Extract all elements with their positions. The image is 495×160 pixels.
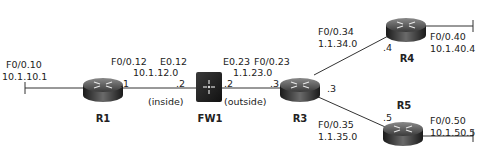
link-r3-r5-subnet: 1.1.35.0 <box>318 131 357 142</box>
r4-host: .4 <box>383 42 392 53</box>
link-r1-fw1-subnet: 10.1.12.0 <box>133 67 178 78</box>
r1-label: R1 <box>96 113 111 124</box>
r5-right-ip: 10.1.50.5 <box>430 127 475 138</box>
r5-right-iface: F0/0.50 <box>430 115 466 126</box>
r3-host-right: .3 <box>327 83 336 94</box>
r1-host-right: .1 <box>120 78 129 89</box>
r1-left-ip: 10.1.10.1 <box>2 71 47 82</box>
network-topology <box>0 0 495 160</box>
link-r3-r4-subnet: 1.1.34.0 <box>318 38 357 49</box>
link-r3-r5-iface: F0/0.35 <box>318 119 354 130</box>
router-r1-icon[interactable] <box>83 78 123 102</box>
fw1-label: FW1 <box>198 113 223 124</box>
fw1-right-iface: E0.23 <box>223 56 250 67</box>
fw1-host-right: .2 <box>224 78 233 89</box>
router-r5-icon[interactable] <box>383 122 423 146</box>
link-fw1-r3-subnet: 1.1.23.0 <box>233 67 272 78</box>
r1-left-iface: F0/0.10 <box>6 59 42 70</box>
fw1-left-iface: E0.12 <box>160 56 187 67</box>
r4-right-iface: F0/0.40 <box>430 31 466 42</box>
link-r3-r4-iface: F0/0.34 <box>318 26 354 37</box>
link-fw1-r3-iface: F0/0.23 <box>254 56 290 67</box>
r5-label: R5 <box>397 100 412 111</box>
r4-right-ip: 10.1.40.4 <box>430 43 475 54</box>
link-r1-fw1-iface: F0/0.12 <box>111 56 147 67</box>
router-r4-icon[interactable] <box>386 18 426 42</box>
r5-host: .5 <box>383 112 392 123</box>
r3-label: R3 <box>293 113 308 124</box>
router-r3-icon[interactable] <box>280 78 320 102</box>
r3-host-left: .3 <box>270 78 279 89</box>
fw1-zone-left: (inside) <box>148 96 184 107</box>
fw1-zone-right: (outside) <box>224 96 266 107</box>
r4-label: R4 <box>400 53 415 64</box>
firewall-fw1-icon[interactable] <box>196 72 222 102</box>
fw1-host-left: .2 <box>176 78 185 89</box>
